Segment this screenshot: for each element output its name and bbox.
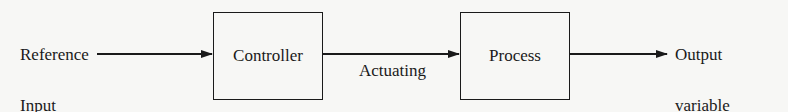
output-label-line: Output [675, 46, 745, 63]
actuating-signal-label: Actuating signal [330, 28, 455, 112]
controller-label: Controller [233, 46, 303, 66]
reference-input-label: Reference Input (desired condition) [20, 12, 90, 112]
input-label-line: Reference [20, 46, 90, 63]
input-label-line: Input [20, 97, 90, 112]
signal-label-line: Actuating [330, 62, 455, 79]
controller-block: Controller [213, 12, 323, 100]
output-label-line: variable [675, 97, 745, 112]
output-variable-label: Output variable (actual condition) [675, 12, 745, 112]
process-block: Process [460, 12, 570, 100]
process-label: Process [489, 46, 541, 66]
